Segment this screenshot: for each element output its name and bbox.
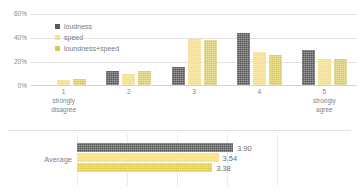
bar-loundness-speed-5 bbox=[334, 59, 347, 85]
x-category-number: 1 bbox=[31, 88, 96, 97]
x-category-number: 3 bbox=[161, 88, 226, 97]
bar-speed-4 bbox=[253, 52, 266, 85]
bar-speed-2 bbox=[122, 74, 135, 85]
y-tick-label: 20% bbox=[14, 59, 27, 66]
bar-loundness-speed-2 bbox=[138, 71, 151, 85]
legend-item-loudness: loudness bbox=[55, 21, 119, 32]
legend-label: speed bbox=[64, 34, 83, 41]
chart-legend: loudness speed loundness+speed bbox=[55, 21, 119, 54]
bar-loudness-5 bbox=[302, 50, 315, 86]
legend-label: loudness bbox=[64, 23, 92, 30]
average-bar-chart: Average 3.903.543.38 bbox=[0, 126, 359, 192]
axis-baseline bbox=[31, 85, 357, 86]
x-category-2: 2 bbox=[96, 88, 161, 114]
x-category-number: 5 bbox=[292, 88, 357, 97]
legend-item-loudness-speed: loundness+speed bbox=[55, 43, 119, 54]
average-bar-loundness-speed: 3.38 bbox=[77, 163, 212, 172]
legend-swatch-icon bbox=[55, 24, 60, 29]
average-row-speed: 3.54 bbox=[77, 153, 277, 162]
y-tick-label: 40% bbox=[14, 35, 27, 42]
x-category-sub: agree bbox=[292, 106, 357, 115]
x-category-number: 4 bbox=[227, 88, 292, 97]
x-category-number: 2 bbox=[96, 88, 161, 97]
average-value-label: 3.54 bbox=[223, 153, 238, 162]
bar-loundness-speed-3 bbox=[204, 40, 217, 85]
y-tick-label: 60% bbox=[14, 11, 27, 18]
plot-area: loudness speed loundness+speed bbox=[31, 14, 357, 86]
legend-swatch-icon bbox=[55, 35, 60, 40]
x-category-1: 1 strongly disagree bbox=[31, 88, 96, 114]
bar-group-5 bbox=[292, 14, 357, 85]
x-category-sub: strongly bbox=[31, 97, 96, 106]
bar-speed-3 bbox=[188, 39, 201, 85]
bar-loundness-speed-4 bbox=[269, 55, 282, 85]
average-bar-loudness: 3.90 bbox=[77, 143, 233, 152]
bar-group-4 bbox=[227, 14, 292, 85]
bar-loundness-speed-1 bbox=[73, 79, 86, 85]
bar-loudness-3 bbox=[172, 67, 185, 85]
grouped-bar-chart: 60% 40% 20% 0% loudness speed loundness+… bbox=[0, 0, 359, 126]
legend-item-speed: speed bbox=[55, 32, 119, 43]
x-category-sub: strongly bbox=[292, 97, 357, 106]
bar-group-3 bbox=[161, 14, 226, 85]
legend-label: loundness+speed bbox=[64, 45, 119, 52]
bar-loudness-4 bbox=[237, 33, 250, 85]
bar-speed-1 bbox=[57, 80, 70, 85]
legend-swatch-icon bbox=[55, 46, 60, 51]
chart-divider bbox=[8, 130, 351, 131]
x-category-5: 5 strongly agree bbox=[292, 88, 357, 114]
x-category-3: 3 bbox=[161, 88, 226, 114]
x-category-4: 4 bbox=[227, 88, 292, 114]
x-category-sub: disagree bbox=[31, 106, 96, 115]
bar-speed-5 bbox=[318, 59, 331, 85]
average-bar-speed: 3.54 bbox=[77, 153, 219, 162]
average-bars: 3.903.543.38 bbox=[77, 143, 277, 172]
y-tick-label: 0% bbox=[18, 83, 27, 90]
average-row-loudness: 3.90 bbox=[77, 143, 277, 152]
average-value-label: 3.38 bbox=[216, 163, 231, 172]
average-row-label: Average bbox=[22, 155, 72, 164]
gridline bbox=[277, 134, 278, 186]
bar-loudness-2 bbox=[106, 71, 119, 85]
average-plot-area: 3.903.543.38 bbox=[77, 138, 277, 178]
y-axis: 60% 40% 20% 0% bbox=[0, 14, 30, 86]
average-row-loundness-speed: 3.38 bbox=[77, 163, 277, 172]
average-value-label: 3.90 bbox=[237, 143, 252, 152]
x-axis-categories: 1 strongly disagree 2 3 4 5 strongly agr… bbox=[31, 88, 357, 114]
